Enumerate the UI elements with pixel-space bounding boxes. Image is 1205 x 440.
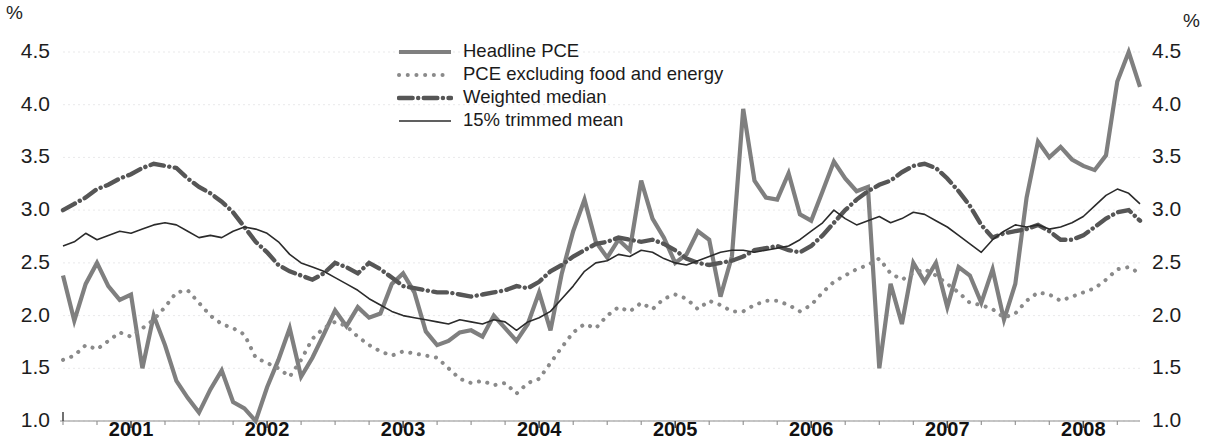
y-axis-tick-label-right: 4.5 — [1152, 39, 1200, 63]
series-weighted-median — [63, 164, 1140, 297]
y-axis-unit-left: % — [6, 2, 23, 24]
legend-item-pce-excluding-food-and-energy[interactable]: PCE excluding food and energy — [397, 63, 727, 86]
y-axis-tick-label-right: 4.0 — [1152, 92, 1200, 116]
y-axis-unit-right: % — [1183, 10, 1200, 32]
y-axis-tick-label-left: 3.5 — [2, 144, 50, 168]
legend-label: 15% trimmed mean — [463, 111, 623, 130]
y-axis-tick-label-left: 3.0 — [2, 197, 50, 221]
x-axis-tick-label-2004: 2004 — [499, 418, 579, 440]
y-axis-tick-label-left: 2.5 — [2, 250, 50, 274]
y-axis-tick-label-right: 2.0 — [1152, 303, 1200, 327]
legend-label: Weighted median — [463, 88, 607, 107]
legend-swatch-icon — [397, 42, 453, 62]
legend-item-headline-pce[interactable]: Headline PCE — [397, 40, 727, 63]
legend-swatch-icon — [397, 88, 453, 108]
legend-swatch-icon — [397, 65, 453, 85]
legend-item-weighted-median[interactable]: Weighted median — [397, 86, 727, 109]
y-axis-tick-label-right: 1.0 — [1152, 408, 1200, 432]
series-line — [63, 164, 1140, 297]
y-axis-tick-label-left: 4.5 — [2, 39, 50, 63]
y-axis-tick-label-right: 3.5 — [1152, 144, 1200, 168]
y-axis-tick-label-left: 1.5 — [2, 355, 50, 379]
legend-label: Headline PCE — [463, 42, 579, 61]
pce-inflation-chart: % % 1.01.52.02.53.03.54.04.5 1.01.52.02.… — [0, 0, 1205, 440]
x-axis-tick-label-2007: 2007 — [907, 418, 987, 440]
y-axis-tick-label-right: 1.5 — [1152, 355, 1200, 379]
legend-label: PCE excluding food and energy — [463, 65, 723, 84]
chart-legend: Headline PCEPCE excluding food and energ… — [397, 40, 727, 132]
y-axis-tick-label-left: 1.0 — [2, 408, 50, 432]
y-axis-tick-label-right: 3.0 — [1152, 197, 1200, 221]
x-axis-tick-label-2008: 2008 — [1043, 418, 1123, 440]
legend-item-15-trimmed-mean[interactable]: 15% trimmed mean — [397, 109, 727, 132]
x-axis-tick-label-2003: 2003 — [363, 418, 443, 440]
y-axis-tick-label-left: 2.0 — [2, 303, 50, 327]
y-axis-tick-label-right: 2.5 — [1152, 250, 1200, 274]
x-axis-tick-label-2006: 2006 — [771, 418, 851, 440]
legend-swatch-icon — [397, 111, 453, 131]
x-axis-tick-label-2001: 2001 — [91, 418, 171, 440]
x-axis-tick-label-2005: 2005 — [635, 418, 715, 440]
x-axis-tick-label-2002: 2002 — [227, 418, 307, 440]
y-axis-tick-label-left: 4.0 — [2, 92, 50, 116]
